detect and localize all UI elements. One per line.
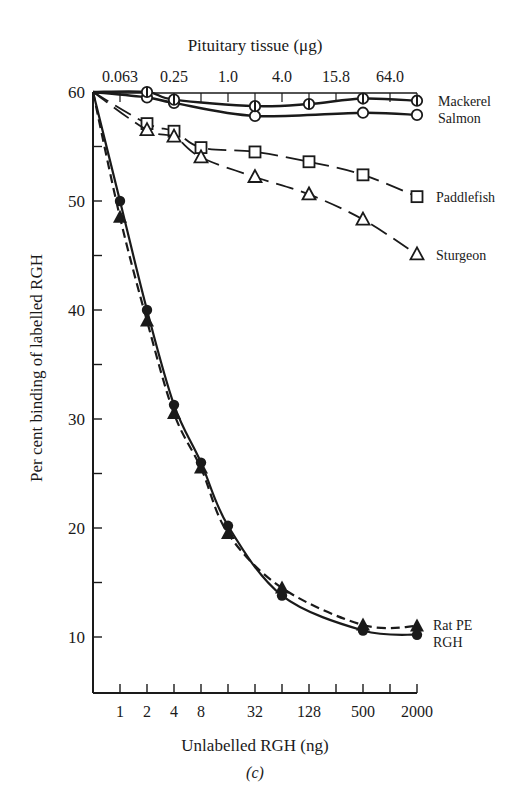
legend-ratpe: Rat PE <box>433 618 472 633</box>
y-axis-title: Per cent binding of labelled RGH <box>27 254 46 482</box>
series-group <box>93 87 424 640</box>
top-x-tick-label: 15.8 <box>322 68 350 85</box>
y-tick-label: 10 <box>68 628 85 647</box>
x-tick-label: 500 <box>351 703 375 720</box>
y-tick-label: 50 <box>68 192 85 211</box>
legend-paddlefish: Paddlefish <box>436 190 495 205</box>
top-x-tick-label: 4.0 <box>272 68 292 85</box>
top-x-tick-label: 1.0 <box>218 68 238 85</box>
x-tick-label: 128 <box>297 703 321 720</box>
x-tick-label: 32 <box>247 703 263 720</box>
y-tick-label: 20 <box>68 519 85 538</box>
binding-chart: 10203040506012483212850020000.0630.251.0… <box>0 0 523 805</box>
y-tick-label: 60 <box>68 83 85 102</box>
y-tick-label: 40 <box>68 301 85 320</box>
axes: 10203040506012483212850020000.0630.251.0… <box>68 68 433 720</box>
x-tick-label: 4 <box>170 703 178 720</box>
legend-rgh: RGH <box>433 635 463 650</box>
top-x-tick-label: 0.063 <box>102 68 138 85</box>
top-axis-title: Pituitary tissue (μg) <box>188 36 323 55</box>
x-tick-label: 8 <box>197 703 205 720</box>
x-tick-label: 2000 <box>401 703 433 720</box>
x-tick-label: 2 <box>143 703 151 720</box>
y-tick-label: 30 <box>68 410 85 429</box>
legend-sturgeon: Sturgeon <box>436 248 486 263</box>
panel-label: (c) <box>246 764 264 782</box>
x-tick-label: 1 <box>116 703 124 720</box>
legend-mackerel: Mackerel <box>438 94 491 109</box>
series-rat-pe <box>93 92 424 632</box>
top-x-tick-label: 64.0 <box>376 68 404 85</box>
top-x-tick-label: 0.25 <box>160 68 188 85</box>
bottom-axis-title: Unlabelled RGH (ng) <box>181 736 328 755</box>
legend-salmon: Salmon <box>438 111 481 126</box>
